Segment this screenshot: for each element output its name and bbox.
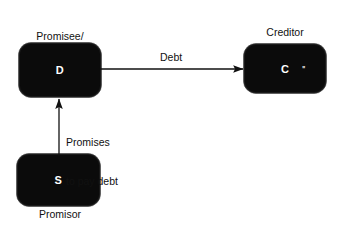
edge-label-promise-line2: to pay debt xyxy=(66,175,118,188)
edge-label-promise: Promises to pay debt xyxy=(66,110,118,214)
node-debtor[interactable]: D xyxy=(20,44,100,96)
creditor-caption: Creditor xyxy=(237,26,333,39)
debtor-caption-line1: Promisee/ xyxy=(8,30,112,43)
node-debtor-label: D xyxy=(20,64,100,76)
edge-label-promise-line1: Promises xyxy=(66,136,118,149)
node-creditor-label: C xyxy=(245,63,325,75)
edge-label-debt: Debt xyxy=(160,51,182,64)
scan-artifact-icon: '' xyxy=(302,64,304,74)
node-creditor[interactable]: C '' xyxy=(245,45,325,92)
diagram-canvas: Promisee/ Debtor D Creditor C '' S Promi… xyxy=(0,0,351,230)
